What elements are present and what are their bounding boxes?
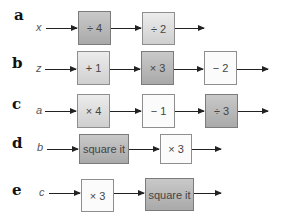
arrow-icon [46, 28, 77, 29]
row-label: c [12, 95, 21, 113]
function-machine-box: square it [79, 134, 129, 164]
function-machine-box: − 1 [142, 94, 175, 128]
arrow-icon [192, 149, 221, 150]
row-label: b [12, 54, 23, 72]
arrow-icon [174, 69, 203, 70]
arrow-icon [194, 193, 221, 194]
row-label: a [14, 6, 24, 24]
function-machine-box: square it [145, 178, 194, 211]
function-machine-box: × 3 [141, 51, 174, 85]
arrow-icon [110, 69, 140, 70]
function-machine-box: − 2 [204, 51, 237, 85]
input-variable: z [36, 62, 42, 74]
row-label: d [12, 134, 23, 152]
input-variable: a [36, 104, 42, 116]
function-machine-box: + 1 [77, 51, 110, 85]
function-machine-box: ÷ 4 [78, 11, 111, 45]
row-label: e [12, 181, 22, 199]
flow-row-d: d b square it × 3 [0, 134, 282, 178]
function-machine-box: × 3 [160, 134, 192, 164]
arrow-icon [238, 111, 268, 112]
arrow-icon [114, 193, 144, 194]
arrow-icon [237, 69, 268, 70]
input-variable: b [37, 141, 43, 153]
arrow-icon [129, 149, 159, 150]
flow-row-b: b z + 1 × 3 − 2 [0, 46, 282, 90]
input-variable: c [39, 186, 45, 198]
arrow-icon [45, 69, 76, 70]
flow-row-a: a x ÷ 4 ÷ 2 [0, 0, 282, 46]
flow-row-e: e c × 3 square it [0, 178, 282, 223]
arrow-icon [110, 111, 141, 112]
function-machine-box: × 4 [77, 94, 110, 128]
arrow-icon [47, 149, 78, 150]
arrow-icon [111, 28, 141, 29]
arrow-icon [175, 111, 204, 112]
function-machine-box: × 3 [81, 179, 114, 212]
arrow-icon [175, 28, 204, 29]
input-variable: x [36, 21, 42, 33]
arrow-icon [45, 111, 76, 112]
flow-row-c: c a × 4 − 1 ÷ 3 [0, 90, 282, 134]
arrow-icon [49, 193, 80, 194]
function-machine-box: ÷ 2 [142, 12, 175, 45]
function-machine-box: ÷ 3 [205, 94, 238, 128]
